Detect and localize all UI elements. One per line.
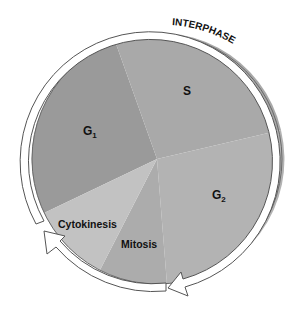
cell-cycle-diagram: INTERPHASE S G1 G2 Cytokinesis Mitosis bbox=[0, 0, 307, 325]
label-s: S bbox=[183, 84, 191, 98]
label-mitosis: Mitosis bbox=[121, 238, 157, 250]
label-cytokinesis: Cytokinesis bbox=[58, 218, 117, 230]
